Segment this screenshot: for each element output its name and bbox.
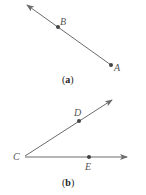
label-a: A (113, 62, 121, 73)
label-d: D (73, 107, 82, 118)
caption-b: (b) (62, 177, 74, 189)
label-c: C (13, 151, 20, 162)
figure-a: B A (a) (27, 5, 121, 86)
geometry-diagram: B A (a) C D E (b) (0, 0, 146, 195)
ray-ab (27, 5, 111, 65)
point-d (77, 119, 81, 123)
figure-b: C D E (b) (13, 100, 127, 189)
ray-cd (25, 100, 112, 156)
caption-a: (a) (62, 74, 74, 86)
point-e (87, 155, 91, 159)
label-e: E (84, 161, 91, 172)
point-a (109, 63, 113, 67)
label-b: B (60, 16, 66, 27)
